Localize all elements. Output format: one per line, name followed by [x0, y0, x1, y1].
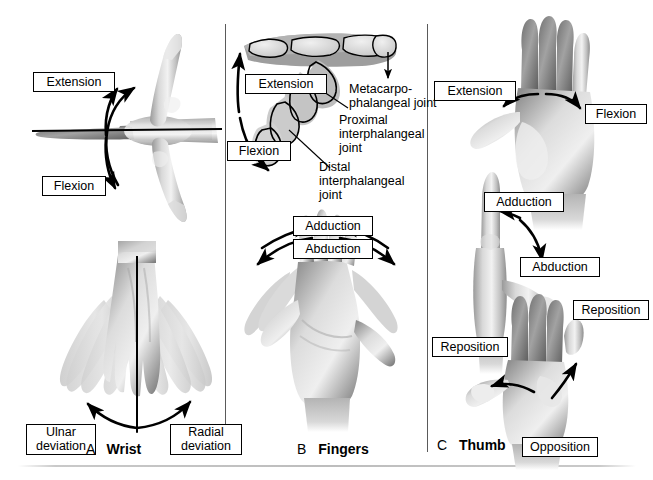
caption-panel-a: A Wrist — [86, 441, 141, 457]
mcp-line-1: Metacarpo- — [349, 82, 439, 96]
caption-panel-b: B Fingers — [297, 441, 369, 457]
pip-line-2: interphalangeal — [339, 127, 431, 141]
label-thumb-extension: Extension — [434, 81, 516, 101]
label-thumb-abduction: Abduction — [520, 257, 600, 277]
radial-line-2: deviation — [175, 440, 237, 454]
label-wrist-extension: Extension — [33, 72, 115, 92]
caption-b-letter: B — [297, 441, 306, 457]
label-wrist-flexion: Flexion — [42, 176, 106, 196]
label-radial-deviation: Radial deviation — [170, 424, 242, 455]
label-finger-abduction: Abduction — [293, 239, 373, 259]
annotation-distal-interphalangeal-joint: Distal interphalangeal joint — [319, 160, 411, 202]
caption-b-word: Fingers — [318, 441, 369, 457]
mcp-line-2: phalangeal joint — [349, 96, 439, 110]
ulnar-line-2: deviation — [31, 440, 91, 454]
label-thumb-reposition-finger: Reposition — [573, 300, 649, 320]
caption-a-letter: A — [86, 441, 95, 457]
label-finger-flexion: Flexion — [227, 141, 291, 161]
pip-line-3: joint — [339, 141, 431, 155]
caption-panel-c: C Thumb — [437, 437, 506, 453]
caption-c-letter: C — [437, 437, 447, 453]
anatomy-figure: Extension Flexion Ulnar deviation Radial… — [0, 0, 653, 480]
annotation-proximal-interphalangeal-joint: Proximal interphalangeal joint — [339, 113, 431, 155]
ulnar-line-1: Ulnar — [31, 426, 91, 440]
label-thumb-reposition-thumb: Reposition — [432, 337, 508, 357]
label-finger-extension: Extension — [245, 74, 327, 94]
caption-a-word: Wrist — [106, 441, 141, 457]
caption-c-word: Thumb — [459, 437, 506, 453]
dip-line-1: Distal — [319, 160, 411, 174]
label-finger-adduction: Adduction — [293, 216, 373, 236]
dip-line-2: interphalangeal — [319, 174, 411, 188]
dip-line-3: joint — [319, 188, 411, 202]
pip-line-1: Proximal — [339, 113, 431, 127]
label-thumb-flexion: Flexion — [585, 104, 647, 124]
radial-line-1: Radial — [175, 426, 237, 440]
label-thumb-opposition: Opposition — [522, 437, 598, 457]
annotation-metacarpophalangeal-joint: Metacarpo- phalangeal joint — [349, 82, 439, 110]
label-thumb-adduction: Adduction — [484, 192, 564, 212]
